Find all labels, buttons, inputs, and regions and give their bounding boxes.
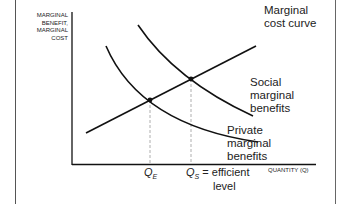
social-mb-label: Social marginal benefits [250,76,294,115]
label-line: Marginal [264,4,316,17]
x-axis-label: QUANTITY (Q) [268,167,309,173]
marginal-cost-curve [86,46,256,133]
y-label-line: MARGINAL [18,27,68,35]
qs-tick-label: QS = efficient [186,166,249,180]
marginal-cost-label: Marginal cost curve [264,4,316,30]
qe-main: Q [144,166,153,178]
label-line: benefits [250,102,294,115]
private-equilibrium-point [148,98,153,103]
y-label-line: COST [18,35,68,43]
qs-main: Q [186,166,195,178]
qs-level-label: level [213,180,236,192]
label-line: benefits [227,150,271,163]
social-equilibrium-point [189,77,194,82]
label-line: Social [250,76,294,89]
label-line: marginal [227,137,271,150]
y-label-line: MARGINAL [18,12,68,20]
y-axis-label: MARGINAL BENEFIT, MARGINAL COST [18,12,68,42]
label-line: Private [227,124,271,137]
social-marginal-benefits-curve [138,25,253,116]
label-line: marginal [250,89,294,102]
qe-tick-label: QE [144,166,157,180]
y-label-line: BENEFIT, [18,20,68,28]
qe-sub: E [153,173,158,180]
qs-rest: = efficient [199,166,249,178]
private-mb-label: Private marginal benefits [227,124,271,163]
label-line: cost curve [264,17,316,30]
